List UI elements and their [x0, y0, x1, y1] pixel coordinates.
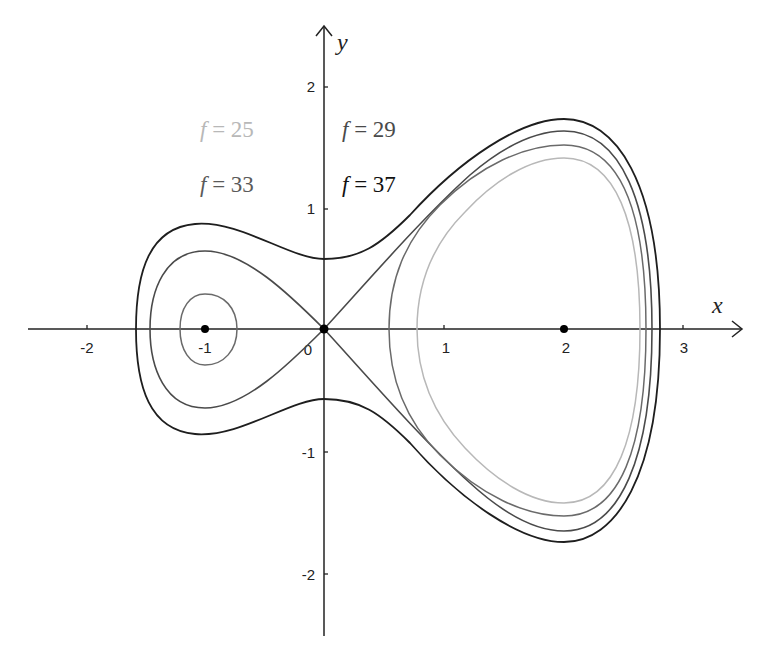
- y-tick-label: 2: [307, 78, 315, 95]
- y-tick-label: -1: [302, 444, 315, 461]
- point-min-neg1: [201, 325, 209, 333]
- label-f33: f = 33: [200, 172, 254, 197]
- point-min-2: [560, 325, 568, 333]
- x-tick-label: -1: [198, 339, 211, 356]
- label-f25: f = 25: [200, 117, 254, 142]
- label-f29: f = 29: [342, 117, 396, 142]
- contour-plot: -2 -1 0 1 2 3 2 1 -1 -2 x y f = 25 f = 2…: [0, 0, 760, 663]
- level-labels: f = 25 f = 29 f = 33 f = 37: [200, 117, 396, 197]
- x-tick-label: -2: [80, 339, 93, 356]
- y-axis-label: y: [335, 29, 348, 55]
- y-tick-label: 1: [307, 200, 315, 217]
- x-tick-label: 0: [304, 341, 312, 358]
- contour-f25: [417, 158, 640, 503]
- label-f37: f = 37: [342, 172, 396, 197]
- contour-f29-right: [389, 145, 646, 516]
- x-tick-label: 1: [442, 339, 450, 356]
- x-tick-label: 3: [680, 339, 688, 356]
- x-axis-label: x: [711, 292, 723, 318]
- x-tick-label: 2: [562, 339, 570, 356]
- y-tick-label: -2: [302, 566, 315, 583]
- point-saddle-origin: [320, 325, 329, 334]
